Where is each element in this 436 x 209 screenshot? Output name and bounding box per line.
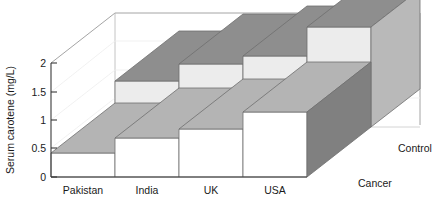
x-tick-label-india: India xyxy=(136,184,159,196)
chart-3d-bar: 2 1.5 1 0.5 0 Serum carotene (mg/L) Paki… xyxy=(0,0,436,209)
legend-label-cancer: Cancer xyxy=(358,177,392,189)
x-axis: Pakistan India UK USA xyxy=(51,177,307,196)
y-axis: 2 1.5 1 0.5 0 Serum carotene (mg/L) xyxy=(4,57,57,183)
y-axis-title: Serum carotene (mg/L) xyxy=(4,66,16,174)
x-tick-label-uk: UK xyxy=(204,184,219,196)
y-tick-label-0-5: 0.5 xyxy=(31,142,46,154)
chart-canvas: 2 1.5 1 0.5 0 Serum carotene (mg/L) Paki… xyxy=(0,0,436,209)
legend-label-control: Control xyxy=(398,142,432,154)
y-tick-label-0: 0 xyxy=(40,171,46,183)
y-tick-label-1-5: 1.5 xyxy=(31,86,46,98)
x-tick-label-usa: USA xyxy=(264,184,286,196)
series-legend: Cancer Control xyxy=(358,142,432,189)
y-tick-label-1: 1 xyxy=(40,114,46,126)
y-tick-label-2: 2 xyxy=(40,57,46,69)
x-tick-label-pakistan: Pakistan xyxy=(63,184,103,196)
